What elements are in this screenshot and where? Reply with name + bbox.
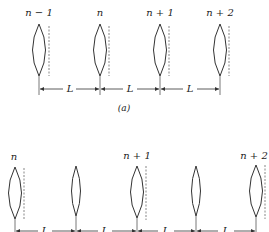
lens-n-plus-2: n + 2	[206, 7, 234, 95]
spacing-label: L	[186, 83, 194, 94]
lens-label: n + 2	[206, 7, 234, 18]
lens-n-minus-1: n − 1	[25, 7, 53, 95]
lens-diagram: n − 1 n n + 1 n + 2 L	[0, 0, 269, 232]
lens-n: n	[9, 151, 25, 232]
spacing-label: L	[66, 83, 74, 94]
spacing-label: L	[126, 83, 134, 94]
spacing-label: L	[101, 225, 109, 232]
lens-n: n	[94, 7, 110, 95]
lens-label: n + 1	[123, 150, 151, 161]
lens-intermediate-1	[72, 166, 81, 232]
figure-b: n n + 1 n + 2	[9, 150, 268, 232]
figure-caption: (a)	[118, 103, 131, 113]
lens-label: n	[11, 151, 17, 162]
lens-label: n − 1	[25, 7, 53, 18]
lens-n-plus-1: n + 1	[123, 150, 151, 232]
lens-label: n + 2	[240, 150, 268, 161]
spacing-label: L	[41, 225, 49, 232]
lens-label: n + 1	[146, 7, 174, 18]
lens-n-plus-1: n + 1	[146, 7, 174, 95]
spacing-label: L	[162, 225, 170, 232]
lens-n-plus-2: n + 2	[240, 150, 268, 232]
spacing-label: L	[222, 225, 230, 232]
lens-label: n	[97, 7, 103, 18]
figure-a: n − 1 n n + 1 n + 2 L	[25, 7, 234, 113]
lens-intermediate-2	[192, 166, 201, 232]
